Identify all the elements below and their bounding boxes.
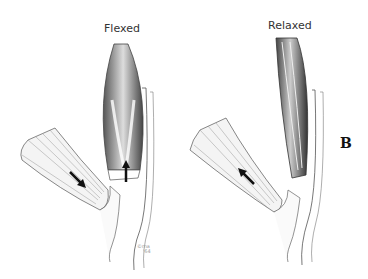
relaxed-muscle <box>276 38 308 178</box>
panel-letter: B <box>340 135 352 151</box>
credit-year: '64 <box>137 248 151 254</box>
relaxed-label: Relaxed <box>268 19 312 32</box>
flexed-label: Flexed <box>104 22 140 35</box>
illustration-canvas: Flexed Relaxed B ©ma '64 <box>0 0 368 279</box>
relaxed-tendon <box>190 118 300 262</box>
anatomy-drawing <box>0 0 368 279</box>
flexed-muscle <box>103 44 143 180</box>
artist-credit: ©ma '64 <box>137 244 151 254</box>
